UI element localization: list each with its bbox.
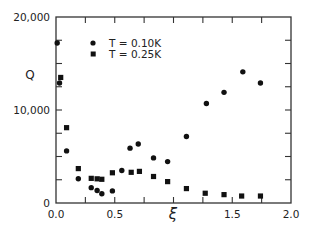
circle-point <box>136 141 141 146</box>
circle-point <box>204 101 209 106</box>
circle-point <box>151 155 156 160</box>
y-tick-label: 10,000 <box>13 104 50 116</box>
circle-point <box>64 148 69 153</box>
circle-point <box>165 159 170 164</box>
square-point <box>239 193 244 198</box>
x-tick-label: 0.5 <box>106 208 123 220</box>
circle-point <box>94 188 99 193</box>
square-point <box>165 179 170 184</box>
square-point <box>129 170 134 175</box>
square-point <box>184 186 189 191</box>
square-point <box>258 193 263 198</box>
y-axis-ticks <box>56 40 291 180</box>
x-axis-label: ξ <box>168 205 178 223</box>
square-point <box>151 174 156 179</box>
circle-point <box>89 185 94 190</box>
data-points <box>54 40 263 198</box>
circle-point <box>221 90 226 95</box>
square-point <box>221 192 226 197</box>
legend-circle-marker-icon <box>90 40 95 45</box>
circle-point <box>54 40 59 45</box>
square-point <box>95 176 100 181</box>
square-point <box>58 75 63 80</box>
y-tick-label: 0 <box>43 197 50 209</box>
circle-point <box>99 191 104 196</box>
x-tick-label: 2.0 <box>283 208 300 220</box>
x-tick-label: 0.0 <box>48 208 65 220</box>
square-point <box>99 177 104 182</box>
square-point <box>110 170 115 175</box>
y-axis-tick-labels: 010,00020,000 <box>13 11 50 209</box>
circle-point <box>57 80 62 85</box>
circle-point <box>119 168 124 173</box>
circle-point <box>240 69 245 74</box>
square-point <box>89 176 94 181</box>
y-tick-label: 20,000 <box>13 11 50 23</box>
circle-point <box>127 145 132 150</box>
square-point <box>203 191 208 196</box>
scatter-chart: 0.00.51.52.0 010,00020,000 ξ Q T = 0.10K… <box>0 0 311 238</box>
circle-point <box>76 176 81 181</box>
legend-square-marker-icon <box>91 52 96 57</box>
y-axis-label: Q <box>25 68 34 82</box>
square-point <box>76 166 81 171</box>
circle-point <box>110 188 115 193</box>
x-tick-label: 1.5 <box>224 208 241 220</box>
circle-point <box>184 134 189 139</box>
legend: T = 0.10K T = 0.25K <box>90 37 162 60</box>
square-point <box>64 125 69 130</box>
legend-label-t025: T = 0.25K <box>108 48 162 60</box>
square-point <box>137 169 142 174</box>
circle-point <box>258 80 263 85</box>
